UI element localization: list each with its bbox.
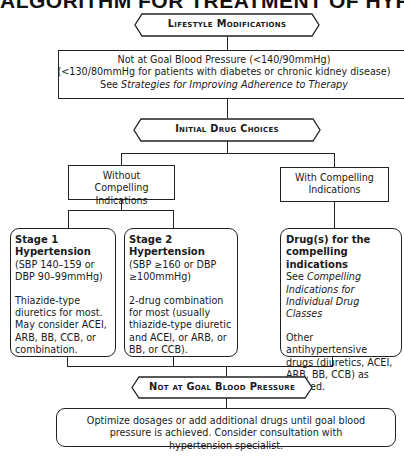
stage1-criteria: (SBP 140–159 or DBP 90–99mmHg) [15,259,111,284]
stage2-heading: Stage 2 Hypertension [129,234,233,259]
adherence-reference: See Strategies for Improving Adherence t… [41,79,404,91]
connector [68,210,174,211]
goal-bp-text: Not at Goal Blood Pressure (<140/90mmHg) [41,54,404,66]
connector [173,356,174,366]
stage1-box: Stage 1 Hypertension (SBP 140–159 or DBP… [10,228,116,357]
compelling-drugs-box: Drug(s) for the compelling indications S… [280,228,402,357]
connector [334,153,335,167]
adherence-link[interactable]: Strategies for Improving Adherence to Th… [121,79,348,90]
connector [173,210,174,229]
stage2-box: Stage 2 Hypertension (SBP ≥160 or DBP ≥1… [124,228,238,357]
compelling-heading: Drug(s) for the compelling indications [286,234,397,271]
stage2-criteria: (SBP ≥160 or DBP ≥100mmHg) [129,259,233,284]
connector [121,153,335,154]
stage2-treatment: 2-drug combination for most (usually thi… [129,295,233,357]
goal-bp-diabetes-text: (<130/80mmHg for patients with diabetes … [41,66,404,78]
lifestyle-modifications-label: Lifestyle Modifications [134,18,320,29]
connector [67,356,68,366]
connector [334,200,335,229]
without-compelling-box: Without Compelling Indications [68,165,175,200]
with-compelling-box: With Compelling Indications [280,167,389,202]
stage1-heading: Stage 1 Hypertension [15,234,111,259]
connector [121,153,122,165]
connector [68,210,69,229]
page-title: ALGORITHM FOR TREATMENT OF HYPERTENSION [0,0,404,13]
connector [226,366,227,376]
not-at-goal-label: Not at Goal Blood Pressure [131,381,313,392]
connector [227,98,228,118]
connector [227,36,228,51]
stage1-treatment: Thiazide-type diuretics for most. May co… [15,295,111,357]
optimize-box: Optimize dosages or add additional drugs… [56,408,396,447]
compelling-reference: See Compelling Indications for Individua… [286,271,397,321]
initial-drug-choices-label: Initial Drug Choices [133,123,321,134]
not-at-goal-box: Not at Goal Blood Pressure (<140/90mmHg)… [58,50,404,99]
